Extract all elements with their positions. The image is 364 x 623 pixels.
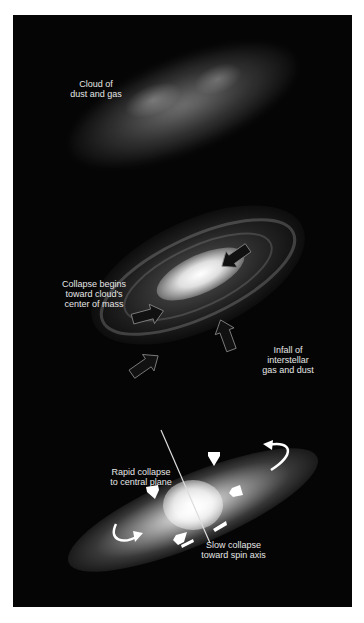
arrow-up-icon (173, 532, 187, 545)
label-rapid-collapse: Rapid collapse to central plane (101, 467, 181, 487)
diagram-panel: Cloud of dust and gas Collapse begins to… (13, 15, 352, 607)
arrow-down-icon (208, 452, 220, 466)
label-slow-collapse: Slow collapse toward spin axis (191, 540, 276, 560)
arrow-left-icon (229, 485, 243, 497)
arrow-left-icon (213, 521, 227, 532)
flattening-overlay (13, 15, 352, 607)
arrow-down-icon (146, 485, 159, 499)
